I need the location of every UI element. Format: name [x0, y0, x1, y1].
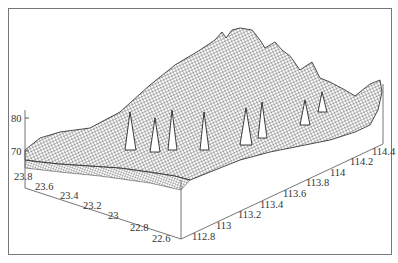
svg-text:114.4: 114.4	[372, 146, 396, 157]
svg-text:22.8: 22.8	[130, 222, 148, 233]
svg-text:112.8: 112.8	[192, 231, 215, 242]
svg-text:113.2: 113.2	[238, 209, 261, 220]
svg-text:23.2: 23.2	[83, 200, 101, 211]
svg-text:80: 80	[11, 113, 22, 124]
svg-text:113: 113	[216, 220, 231, 231]
svg-text:70: 70	[11, 146, 22, 157]
svg-text:114.2: 114.2	[350, 156, 373, 167]
svg-text:22.6: 22.6	[152, 233, 170, 244]
svg-text:23.8: 23.8	[14, 171, 32, 182]
svg-text:23.6: 23.6	[35, 181, 53, 192]
svg-text:113.4: 113.4	[260, 199, 284, 210]
surface-plot: 80 70 23.8 23.6 23.4 23.2 23 22.8 22.6 1…	[0, 0, 398, 263]
svg-text:23.4: 23.4	[60, 190, 79, 201]
svg-text:114: 114	[330, 167, 346, 178]
svg-text:23: 23	[108, 210, 119, 221]
svg-text:113.8: 113.8	[306, 177, 329, 188]
surface-mesh	[25, 28, 382, 190]
svg-text:113.6: 113.6	[283, 188, 306, 199]
